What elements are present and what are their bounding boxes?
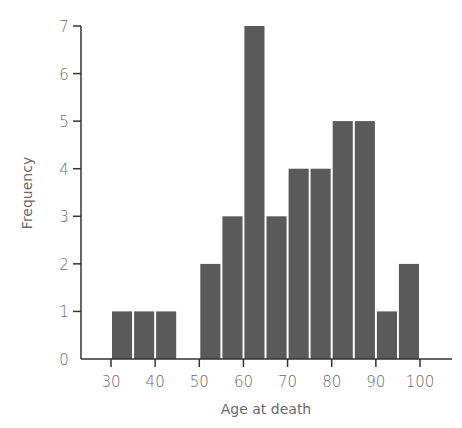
y-tick-label: 4 <box>59 161 69 179</box>
x-tick-label: 90 <box>366 373 385 391</box>
histogram-bar <box>311 169 331 359</box>
x-tick-label: 40 <box>146 373 165 391</box>
histogram-bar <box>134 311 154 359</box>
x-axis-title: Age at death <box>221 401 312 417</box>
histogram-bar <box>244 26 264 359</box>
x-axis: 30405060708090100 <box>81 359 452 391</box>
x-tick-label: 30 <box>101 373 120 391</box>
histogram-bar <box>200 264 220 359</box>
y-tick-label: 3 <box>59 208 69 226</box>
histogram-bar <box>267 216 287 359</box>
y-tick-label: 5 <box>59 113 69 131</box>
histogram-bar <box>289 169 309 359</box>
x-tick-label: 70 <box>278 373 297 391</box>
histogram-bar <box>333 121 353 359</box>
x-tick-label: 100 <box>406 373 435 391</box>
y-axis: 01234567 <box>59 18 81 369</box>
y-axis-title: Frequency <box>19 157 35 229</box>
x-tick-label: 80 <box>322 373 341 391</box>
histogram-bar <box>222 216 242 359</box>
histogram-bar <box>112 311 132 359</box>
histogram-bar <box>156 311 176 359</box>
y-tick-label: 1 <box>59 303 69 321</box>
y-tick-label: 7 <box>59 18 69 36</box>
y-tick-label: 2 <box>59 256 69 274</box>
y-tick-label: 0 <box>59 351 69 369</box>
x-tick-label: 50 <box>190 373 209 391</box>
histogram-bars <box>112 26 419 359</box>
histogram-bar <box>355 121 375 359</box>
x-tick-label: 60 <box>234 373 253 391</box>
histogram-bar <box>377 311 397 359</box>
y-tick-label: 6 <box>59 66 69 84</box>
histogram-bar <box>399 264 419 359</box>
histogram-chart: 01234567 30405060708090100 Age at death … <box>0 0 462 428</box>
